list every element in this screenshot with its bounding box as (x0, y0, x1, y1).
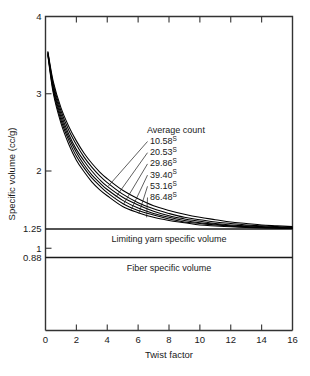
y-tick-label: 4 (36, 11, 41, 22)
x-tick-label: 0 (43, 334, 48, 345)
reference-label-limiting-yarn-specific-volume: Limiting yarn specific volume (111, 234, 226, 244)
legend-entry-superscript: S (173, 180, 178, 187)
x-axis-title: Twist factor (145, 349, 193, 360)
x-tick-label: 12 (225, 334, 236, 345)
y-tick-label: 0.88 (23, 252, 42, 263)
legend-title: Average count (147, 125, 205, 135)
y-tick-label: 3 (36, 88, 41, 99)
y-tick-label: 2 (36, 165, 41, 176)
x-tick-label: 8 (166, 334, 171, 345)
legend-entry-superscript: S (173, 157, 178, 164)
specific-volume-vs-twist-factor-chart: 0246810121416 4321.2510.88 Limiting yarn… (0, 0, 310, 376)
y-axis-title: Specific volume (cc/g) (6, 128, 17, 221)
y-tick-label: 1.25 (23, 223, 42, 234)
figure-container: 0246810121416 4321.2510.88 Limiting yarn… (0, 0, 310, 376)
x-tick-label: 10 (195, 334, 206, 345)
x-tick-label: 16 (287, 334, 298, 345)
legend-entry-superscript: S (173, 146, 178, 153)
x-tick-label: 6 (135, 334, 140, 345)
x-tick-label: 2 (74, 334, 79, 345)
legend-entry-superscript: S (173, 168, 178, 175)
x-tick-label: 4 (105, 334, 110, 345)
reference-label-fiber-specific-volume: Fiber specific volume (127, 263, 212, 273)
x-tick-label: 14 (256, 334, 267, 345)
legend-entry-superscript: S (173, 135, 178, 142)
legend-entry-superscript: S (173, 191, 178, 198)
